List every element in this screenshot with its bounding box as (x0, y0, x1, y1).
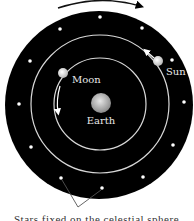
caption-text: Stars fixed on the celestial sphere (0, 214, 194, 221)
star (59, 176, 63, 180)
earth (91, 93, 111, 113)
star (98, 15, 102, 19)
star (182, 100, 186, 104)
caption-cropped: Stars fixed on the celestial sphere (0, 214, 194, 221)
star (58, 27, 62, 31)
star (29, 145, 33, 149)
sun-label: Sun (166, 66, 186, 77)
geocentric-diagram: Earth Moon Sun (0, 0, 194, 221)
sun (153, 56, 163, 66)
star (140, 26, 144, 30)
star (100, 186, 104, 190)
celestial-sphere-rotation-arrow (58, 0, 140, 8)
star (141, 175, 145, 179)
star (28, 59, 32, 63)
moon (58, 68, 68, 78)
earth-label: Earth (87, 115, 116, 126)
moon-label: Moon (72, 74, 101, 85)
star (170, 58, 174, 62)
star (17, 102, 21, 106)
star (171, 143, 175, 147)
